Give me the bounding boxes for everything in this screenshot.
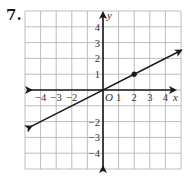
x-tick-label: 4 [163, 92, 169, 103]
coordinate-plane: −4−3−212344321−2−3−4Oxy [0, 0, 188, 177]
x-tick-label: 1 [116, 92, 121, 103]
plotted-point [132, 72, 137, 77]
plotted-line [31, 51, 181, 127]
y-tick-label: −3 [89, 132, 100, 143]
x-tick-label: 2 [132, 92, 137, 103]
y-tick-label: 3 [95, 38, 100, 49]
x-tick-label: −3 [51, 92, 62, 103]
x-axis-label: x [172, 91, 178, 103]
origin-label: O [105, 91, 113, 103]
y-tick-label: 2 [95, 53, 100, 64]
x-tick-label: −2 [66, 92, 77, 103]
y-tick-label: −2 [89, 117, 100, 128]
y-tick-label: 4 [95, 22, 101, 33]
y-tick-label: −4 [89, 148, 101, 159]
y-axis-label: y [106, 9, 112, 21]
x-tick-label: 3 [147, 92, 152, 103]
y-tick-label: 1 [95, 69, 100, 80]
x-tick-label: −4 [35, 92, 47, 103]
graph-line [31, 51, 181, 127]
